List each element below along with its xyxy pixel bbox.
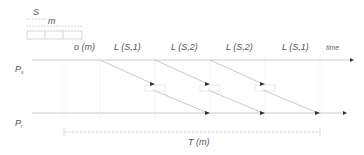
total-label: T (m) <box>188 137 210 147</box>
arrow-head-icon <box>350 58 354 62</box>
receiver-axis-label: Pr <box>15 118 23 129</box>
interval-label: o (m) <box>74 42 95 52</box>
message-timing-diagram: S m o (m) L (S,1) L (S,2) L (S,2) L (S,1… <box>0 0 364 155</box>
arrow-head-icon <box>343 111 347 115</box>
interval-label: L (S,1) <box>114 42 141 52</box>
legend-s-label: S <box>33 7 39 17</box>
message-paths <box>100 60 318 113</box>
time-label: time <box>326 44 339 51</box>
sender-axis-label: Ps <box>15 64 24 75</box>
interval-dividers <box>64 55 320 120</box>
interval-label: L (S,2) <box>226 42 253 52</box>
legend-message-box <box>27 31 82 39</box>
interval-label: L (S,2) <box>171 42 198 52</box>
legend-m-label: m <box>48 16 56 26</box>
interval-label: L (S,1) <box>282 42 309 52</box>
arrow-heads <box>150 82 320 115</box>
